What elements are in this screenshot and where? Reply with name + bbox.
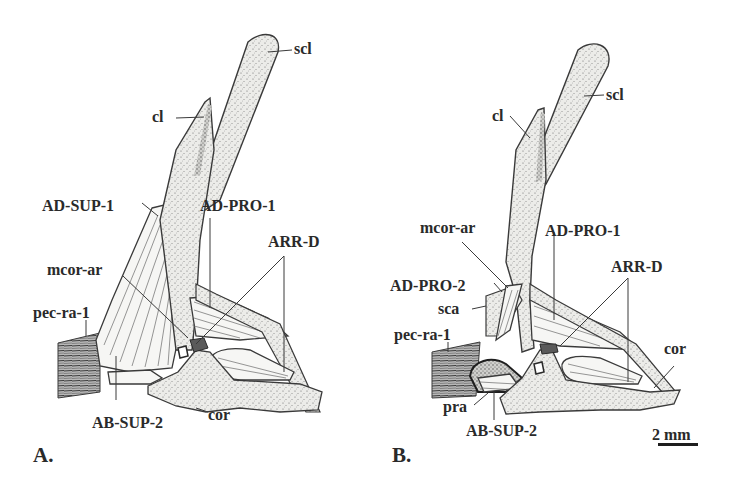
label-pec-ra-1: pec-ra-1 xyxy=(33,304,90,322)
arr-d-muscle xyxy=(562,356,642,384)
foramen xyxy=(178,346,188,358)
label-cl: cl xyxy=(152,108,164,125)
label-arr-d: ARR-D xyxy=(611,258,663,275)
label-mcor-ar: mcor-ar xyxy=(420,219,475,236)
label-ad-pro-1: AD-PRO-1 xyxy=(200,197,276,214)
panel-label-b: B. xyxy=(392,443,411,467)
pectoral-girdle-figure: scl cl AD-SUP-1 AD-PRO-1 ARR-D mcor-ar p… xyxy=(0,0,729,491)
label-mcor-ar: mcor-ar xyxy=(47,261,102,278)
panel-b: scl cl mcor-ar AD-PRO-1 AD-PRO-2 ARR-D s… xyxy=(390,44,698,467)
label-pec-ra-1: pec-ra-1 xyxy=(394,326,451,344)
label-ab-sup-2: AB-SUP-2 xyxy=(466,422,537,439)
pectoral-fin-rays xyxy=(58,333,100,398)
scale-bar: 2 mm xyxy=(652,426,698,446)
label-arr-d: ARR-D xyxy=(268,233,320,250)
foramen xyxy=(534,362,544,374)
label-ad-pro-1: AD-PRO-1 xyxy=(545,222,621,239)
label-ab-sup-2: AB-SUP-2 xyxy=(92,414,163,431)
panel-a: scl cl AD-SUP-1 AD-PRO-1 ARR-D mcor-ar p… xyxy=(33,35,322,467)
label-ad-pro-2: AD-PRO-2 xyxy=(390,277,466,294)
label-cor: cor xyxy=(664,340,686,357)
label-pra: pra xyxy=(443,398,467,416)
scale-bar-line xyxy=(658,443,698,446)
arr-d-insertion xyxy=(540,344,558,354)
label-sca: sca xyxy=(438,300,459,317)
label-ad-sup-1: AD-SUP-1 xyxy=(42,197,114,214)
label-cor: cor xyxy=(208,406,230,423)
label-scl: scl xyxy=(606,86,624,103)
panel-label-a: A. xyxy=(33,443,53,467)
label-cl: cl xyxy=(492,107,504,124)
scale-bar-label: 2 mm xyxy=(652,426,691,443)
scl-bone xyxy=(538,44,609,192)
label-scl: scl xyxy=(294,40,312,57)
